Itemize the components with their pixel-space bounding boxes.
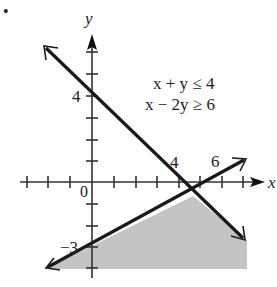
- x-tick-4-label: 4: [170, 153, 179, 172]
- x-axis: [20, 176, 258, 188]
- inequality-graph: •: [0, 0, 277, 287]
- y-axis-label: y: [83, 9, 93, 28]
- x-tick-6-label: 6: [211, 152, 220, 171]
- y-tick-neg3-label: −3: [60, 238, 78, 257]
- problem-bullet: •: [3, 3, 9, 20]
- inequality-1: x + y ≤ 4: [153, 74, 215, 93]
- origin-label: 0: [80, 183, 88, 200]
- inequality-2: x − 2y ≥ 6: [145, 95, 215, 114]
- x-axis-label: x: [267, 173, 276, 192]
- shaded-region: [45, 196, 247, 269]
- line-x-plus-y-eq-4: [44, 46, 245, 240]
- y-tick-4-label: 4: [72, 87, 81, 106]
